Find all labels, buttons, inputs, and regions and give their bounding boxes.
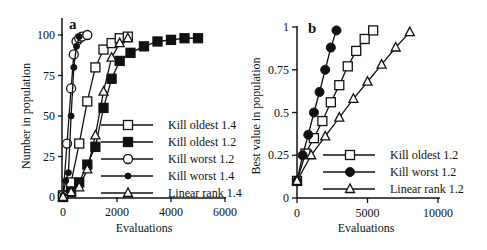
legend-item: Kill worst 1.2 xyxy=(101,152,234,166)
figure: 0255075100 0200040006000 Kill oldest 1.4… xyxy=(0,0,487,250)
x-tick-label: 4000 xyxy=(159,205,183,219)
filled-circle-marker-icon xyxy=(326,43,335,52)
open-circle-marker-icon xyxy=(83,31,92,40)
open-triangle-marker-icon xyxy=(99,87,108,96)
y-tick-label: 0 xyxy=(283,191,289,205)
panel-a-label: a xyxy=(69,16,77,32)
filled-circle-marker-icon xyxy=(315,87,324,96)
open-square-marker-icon xyxy=(352,46,361,55)
legend-label: Linear rank 1.2 xyxy=(390,182,464,196)
panel-b-x-label: Evaluations xyxy=(338,221,395,235)
y-tick-label: 0.5 xyxy=(274,106,289,120)
filled-circle-marker-icon xyxy=(68,113,74,119)
y-tick-label: 25 xyxy=(43,150,55,164)
panel-b-y-label: Best value in population xyxy=(249,58,263,175)
panel-a-y-ticks: 0255075100 xyxy=(37,28,63,204)
filled-square-marker-icon xyxy=(107,74,116,83)
panel-a-chart: 0255075100 0200040006000 Kill oldest 1.4… xyxy=(19,16,242,235)
filled-square-marker-icon xyxy=(153,37,162,46)
filled-circle-marker-icon xyxy=(346,168,355,177)
open-square-marker-icon xyxy=(75,139,84,148)
y-tick-label: 100 xyxy=(37,28,55,42)
open-square-marker-icon xyxy=(360,34,369,43)
x-tick-label: 2000 xyxy=(105,205,129,219)
y-tick-label: 50 xyxy=(43,109,55,123)
open-triangle-marker-icon xyxy=(405,27,414,36)
filled-circle-marker-icon xyxy=(63,178,69,184)
legend-item: Kill worst 1.4 xyxy=(101,169,234,183)
open-square-marker-icon xyxy=(343,62,352,71)
x-tick-label: 0 xyxy=(60,205,66,219)
filled-circle-marker-icon xyxy=(309,108,318,117)
filled-circle-marker-icon xyxy=(65,170,71,176)
open-square-marker-icon xyxy=(335,81,344,90)
filled-square-marker-icon xyxy=(140,42,149,51)
legend-label: Kill oldest 1.4 xyxy=(168,118,236,132)
panel-a-x-label: Evaluations xyxy=(116,221,173,235)
open-square-marker-icon xyxy=(124,121,133,130)
open-square-marker-icon xyxy=(369,26,378,35)
panel-a-x-ticks: 0200040006000 xyxy=(60,197,237,219)
legend-label: Kill worst 1.2 xyxy=(168,152,234,166)
panel-b-label: b xyxy=(308,20,316,36)
open-square-marker-icon xyxy=(346,151,355,160)
legend-item: Kill oldest 1.2 xyxy=(101,135,236,149)
panel-b-x-ticks: 0500010000 xyxy=(294,198,453,220)
legend-label: Linear rank 1.4 xyxy=(168,186,242,200)
filled-circle-marker-icon xyxy=(71,64,77,70)
legend-label: Kill worst 1.4 xyxy=(168,169,234,183)
filled-circle-marker-icon xyxy=(298,151,307,160)
filled-square-marker-icon xyxy=(180,34,189,43)
filled-square-marker-icon xyxy=(194,34,203,43)
open-triangle-marker-icon xyxy=(346,184,355,193)
legend-item: Kill oldest 1.2 xyxy=(323,148,458,162)
x-tick-label: 5000 xyxy=(356,206,380,220)
panel-b-chart: 00.250.50.751 0500010000 Kill oldest 1.2… xyxy=(249,20,464,235)
y-tick-label: 75 xyxy=(43,69,55,83)
legend-label: Kill oldest 1.2 xyxy=(168,135,236,149)
filled-circle-marker-icon xyxy=(304,130,313,139)
filled-square-marker-icon xyxy=(126,48,135,57)
open-circle-marker-icon xyxy=(124,155,133,164)
filled-circle-marker-icon xyxy=(74,43,80,49)
open-square-marker-icon xyxy=(318,117,327,126)
panel-b-legend: Kill oldest 1.2Kill worst 1.2Linear rank… xyxy=(323,148,464,196)
filled-square-marker-icon xyxy=(124,138,133,147)
panel-a-legend: Kill oldest 1.4Kill oldest 1.2Kill worst… xyxy=(101,118,242,200)
y-tick-label: 1 xyxy=(283,20,289,34)
open-square-marker-icon xyxy=(326,98,335,107)
y-tick-label: 0 xyxy=(49,190,55,204)
legend-label: Kill oldest 1.2 xyxy=(390,148,458,162)
y-tick-label: 0.75 xyxy=(268,63,289,77)
open-circle-marker-icon xyxy=(67,84,76,93)
filled-square-marker-icon xyxy=(167,35,176,44)
open-square-marker-icon xyxy=(83,97,92,106)
x-tick-label: 6000 xyxy=(213,205,237,219)
panel-a-y-label: Number in population xyxy=(19,63,33,169)
filled-circle-marker-icon xyxy=(321,65,330,74)
filled-circle-marker-icon xyxy=(76,34,82,40)
legend-label: Kill worst 1.2 xyxy=(390,165,456,179)
x-tick-label: 10000 xyxy=(423,206,453,220)
open-square-marker-icon xyxy=(91,63,100,72)
legend-item: Kill worst 1.2 xyxy=(323,165,456,179)
legend-item: Linear rank 1.2 xyxy=(323,182,464,196)
open-triangle-marker-icon xyxy=(124,188,133,197)
y-tick-label: 0.25 xyxy=(268,148,289,162)
legend-item: Kill oldest 1.4 xyxy=(101,118,236,132)
filled-circle-marker-icon xyxy=(125,173,131,179)
open-circle-marker-icon xyxy=(69,50,78,59)
filled-circle-marker-icon xyxy=(332,26,341,35)
x-tick-label: 0 xyxy=(294,206,300,220)
